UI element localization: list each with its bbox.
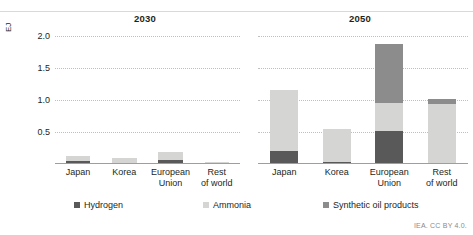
bar-segment-ammonia (323, 129, 351, 162)
category-label: Japan (56, 167, 100, 189)
legend-swatch-synthetic (323, 202, 329, 208)
bar-column (314, 36, 360, 164)
bar-segment-ammonia (375, 103, 403, 131)
category-labels-2050: JapanKoreaEuropeanUnionRestof world (258, 167, 468, 189)
bar-segment-ammonia (428, 104, 456, 164)
bar-segment-hydrogen (375, 131, 403, 164)
category-label: EuropeanUnion (148, 167, 192, 189)
category-label: Korea (312, 167, 362, 189)
bar-segment-ammonia (158, 152, 182, 160)
chart-legend: Hydrogen Ammonia Synthetic oil products (0, 200, 473, 210)
legend-swatch-ammonia (203, 202, 209, 208)
figure-top-rule (0, 11, 473, 12)
category-label: Korea (102, 167, 146, 189)
category-label: Japan (259, 167, 309, 189)
bar-group-2050 (258, 36, 468, 164)
category-label-line2: of world (195, 178, 239, 189)
bar-segment-ammonia (270, 90, 298, 151)
bar-column (104, 36, 145, 164)
legend-label-hydrogen: Hydrogen (84, 200, 123, 210)
bar-column (366, 36, 412, 164)
legend-label-ammonia: Ammonia (213, 200, 251, 210)
category-label-line2: Union (364, 178, 414, 189)
category-label-line2: Union (148, 178, 192, 189)
stacked-bar[interactable] (323, 129, 351, 164)
bar-column (197, 36, 238, 164)
chart-figure: 2030 2050 EJ 2.0 1.5 1.0 0.5 JapanKoreaE… (0, 0, 473, 235)
y-axis-title: EJ (4, 23, 13, 32)
y-tick-2-0: 2.0 (16, 31, 50, 41)
stacked-bar[interactable] (375, 44, 403, 164)
category-labels-2030: JapanKoreaEuropeanUnionRestof world (55, 167, 240, 189)
plot-panel-2030 (55, 36, 240, 164)
category-label-line2: of world (417, 178, 467, 189)
bar-group-2030 (55, 36, 240, 164)
attribution-text: IEA. CC BY 4.0. (414, 222, 467, 229)
legend-label-synthetic: Synthetic oil products (333, 200, 419, 210)
bar-column (150, 36, 191, 164)
legend-item-ammonia[interactable]: Ammonia (203, 200, 251, 210)
bar-column (58, 36, 99, 164)
category-label: EuropeanUnion (364, 167, 414, 189)
stacked-bar[interactable] (270, 90, 298, 164)
panel-title-2050: 2050 (315, 13, 405, 24)
legend-item-hydrogen[interactable]: Hydrogen (74, 200, 123, 210)
plot-panel-2050 (258, 36, 468, 164)
stacked-bar[interactable] (428, 99, 456, 164)
y-tick-1-0: 1.0 (16, 95, 50, 105)
bar-column (419, 36, 465, 164)
y-tick-0-5: 0.5 (16, 127, 50, 137)
y-tick-1-5: 1.5 (16, 63, 50, 73)
bar-column (261, 36, 307, 164)
legend-swatch-hydrogen (74, 202, 80, 208)
panel-title-2030: 2030 (100, 13, 190, 24)
bar-segment-synthetic-oil-products (375, 44, 403, 103)
axis-baseline-2050 (258, 163, 468, 164)
axis-baseline-2030 (55, 163, 240, 164)
legend-item-synthetic[interactable]: Synthetic oil products (323, 200, 419, 210)
category-label: Restof world (417, 167, 467, 189)
category-label: Restof world (195, 167, 239, 189)
